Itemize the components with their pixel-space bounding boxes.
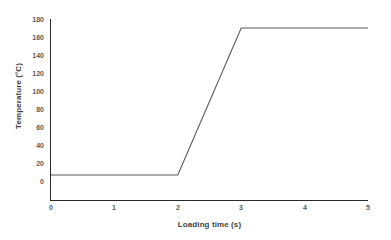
y-tick-180: 180 [20,16,44,24]
y-tick-label: 80 [20,106,44,114]
y-tick-0: 0 [20,178,44,186]
y-tick-label: 100 [20,88,44,96]
x-axis-line [50,200,368,201]
y-tick-label: 40 [20,142,44,150]
y-tick-label: 0 [20,178,44,186]
y-tick-label: 180 [20,16,44,24]
x-tick-1: 1 [102,203,126,212]
y-tick-20: 20 [20,160,44,168]
y-tick-label: 60 [20,124,44,132]
line-chart: Temperature (°C) 180 160 140 120 100 80 … [0,0,391,240]
y-tick-label: 160 [20,34,44,42]
x-tick-label: 3 [229,203,253,212]
x-tick-label: 5 [356,203,380,212]
y-tick-label: 20 [20,160,44,168]
x-tick-label: 2 [166,203,190,212]
plot-area [51,20,368,200]
y-tick-60: 60 [20,124,44,132]
y-tick-100: 100 [20,88,44,96]
y-tick-160: 160 [20,34,44,42]
x-tick-label: 1 [102,203,126,212]
x-tick-5: 5 [356,203,380,212]
y-tick-40: 40 [20,142,44,150]
x-tick-4: 4 [293,203,317,212]
y-tick-120: 120 [20,70,44,78]
x-tick-0: 0 [39,203,63,212]
x-axis-title: Loading time (s) [51,220,368,229]
x-tick-2: 2 [166,203,190,212]
series-line-temperature-profile [51,28,368,175]
y-tick-80: 80 [20,106,44,114]
y-tick-label: 140 [20,52,44,60]
x-tick-3: 3 [229,203,253,212]
y-tick-140: 140 [20,52,44,60]
x-tick-label: 4 [293,203,317,212]
series-svg [51,20,368,200]
y-tick-label: 120 [20,70,44,78]
x-tick-label: 0 [39,203,63,212]
